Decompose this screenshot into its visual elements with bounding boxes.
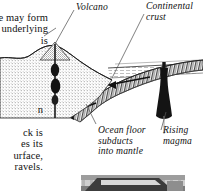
body-text-top-left: le may form e underlying is bbox=[0, 12, 48, 46]
callout-volcano: Volcano bbox=[76, 2, 108, 13]
geology-diagram-figure: le may form e underlying is n ck is es i… bbox=[0, 0, 203, 191]
photo-fragment bbox=[63, 175, 203, 191]
callout-continental-crust: Continental crust bbox=[146, 1, 193, 22]
body-text-bottom-left: n ck is es its urface, ravels. bbox=[0, 104, 43, 172]
callout-rising-magma: Rising magma bbox=[163, 125, 192, 146]
callout-ocean-floor-subducts: Ocean floor subducts into mantle bbox=[98, 125, 146, 157]
